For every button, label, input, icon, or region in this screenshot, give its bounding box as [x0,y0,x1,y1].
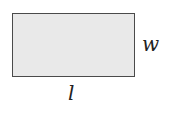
length-label: l [68,83,74,103]
rectangle-shape [12,13,135,77]
width-label: w [142,34,159,54]
